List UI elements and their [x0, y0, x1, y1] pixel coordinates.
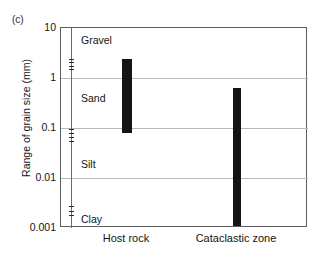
y-tick-label-0.01: 0.01: [8, 172, 56, 182]
y-minor-tick: [69, 141, 74, 142]
y-tick-label-10: 10: [8, 22, 56, 32]
y-minor-tick: [69, 211, 74, 212]
y-minor-tick: [69, 215, 74, 216]
y-minor-tick: [69, 133, 74, 134]
range-bar-cataclastic-zone: [233, 88, 241, 226]
plot-area: Gravel Sand Silt Clay: [60, 27, 307, 227]
class-label-sand: Sand: [81, 92, 106, 104]
gridline-0.1: [61, 128, 308, 129]
y-minor-tick: [69, 59, 74, 60]
class-label-clay: Clay: [81, 213, 102, 225]
class-label-silt: Silt: [81, 158, 96, 170]
y-minor-tick: [69, 66, 74, 67]
gridline-1: [61, 78, 308, 79]
y-minor-tick: [69, 62, 74, 63]
gridline-0.01: [61, 178, 308, 179]
y-axis-tick-labels: 10 1 0.1 0.01 0.001: [4, 27, 56, 227]
y-minor-tick: [69, 69, 74, 70]
x-tick-label-cataclastic-zone: Cataclastic zone: [196, 232, 277, 244]
y-minor-tick: [69, 129, 74, 130]
x-axis-tick-labels: Host rock Cataclastic zone: [60, 232, 307, 250]
y-minor-tick: [69, 137, 74, 138]
y-tick-label-1: 1: [8, 72, 56, 82]
class-label-gravel: Gravel: [81, 34, 112, 46]
y-axis-spine: [71, 28, 72, 228]
range-bar-host-rock: [122, 59, 132, 133]
y-tick-label-0.1: 0.1: [8, 122, 56, 132]
y-minor-tick: [69, 206, 74, 207]
figure-panel-c: (c) Range of grain size (mm) 10 1 0.1 0.…: [0, 0, 328, 263]
y-tick-label-0.001: 0.001: [8, 222, 56, 232]
x-tick-label-host-rock: Host rock: [103, 232, 149, 244]
